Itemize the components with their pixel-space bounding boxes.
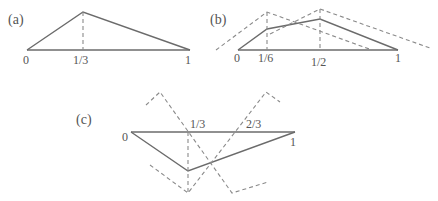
panel-a-tick-0: 0: [23, 53, 29, 67]
panel-b-tick-1-2: 1/2: [311, 55, 326, 69]
panel-a-label: (a): [8, 12, 24, 28]
panel-b: (b) 0 1/6 1/2 1: [210, 9, 430, 69]
panel-a-hat-function: [27, 12, 190, 50]
panel-c-tick-2-3: 2/3: [246, 117, 261, 131]
panel-c: (c) 0 1/3 2/3 1: [76, 92, 296, 193]
panel-a: (a) 0 1/3 1: [8, 12, 191, 67]
panel-c-tick-1-3: 1/3: [190, 117, 205, 131]
panel-b-label: (b): [210, 12, 227, 28]
panel-a-tick-1-3: 1/3: [73, 53, 88, 67]
panel-b-tick-1: 1: [395, 51, 401, 65]
panel-a-tick-1: 1: [185, 53, 191, 67]
panel-b-piecewise-function: [238, 19, 398, 50]
panel-c-dashed-hat-2: [150, 92, 280, 193]
panel-c-dashed-hat-1: [146, 92, 268, 193]
panel-b-dashed-hat-2: [270, 9, 430, 48]
panel-c-label: (c): [76, 112, 92, 128]
diagram-canvas: (a) 0 1/3 1 (b) 0 1/6 1/2 1 (c) 0 1/3 2/…: [0, 0, 438, 201]
panel-c-tick-0: 0: [122, 130, 128, 144]
panel-b-tick-0: 0: [234, 51, 240, 65]
panel-c-piecewise-function: [131, 132, 295, 171]
panel-b-tick-1-6: 1/6: [258, 51, 273, 65]
panel-c-tick-1: 1: [290, 135, 296, 149]
